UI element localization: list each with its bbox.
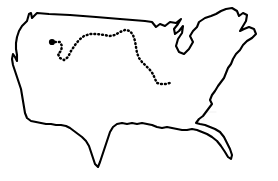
origin-point-marker[interactable] xyxy=(49,39,55,45)
map-figure: Contiguous United States xyxy=(0,0,278,181)
us-country-outline[interactable] xyxy=(12,8,256,167)
us-map-svg[interactable]: Contiguous United States xyxy=(0,0,278,181)
